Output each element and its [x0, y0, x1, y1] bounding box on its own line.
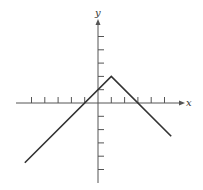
axes [16, 19, 185, 183]
coordinate-plane: x y [0, 0, 203, 190]
x-axis-arrow-icon [179, 101, 185, 106]
y-axis-label: y [94, 7, 101, 18]
x-axis-label: x [186, 97, 192, 108]
y-axis-arrow-icon [96, 19, 101, 25]
